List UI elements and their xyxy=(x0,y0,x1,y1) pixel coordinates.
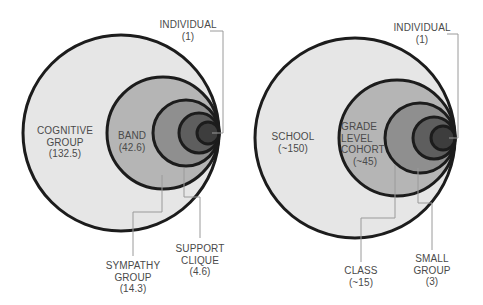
label-line: INDIVIDUAL xyxy=(388,22,456,34)
label-line: COHORT xyxy=(341,144,393,156)
label-grade-level-cohort: GRADE LEVEL COHORT (~45) xyxy=(341,121,393,167)
label-class: CLASS (~15) xyxy=(335,265,387,288)
label-value: (1) xyxy=(388,34,456,46)
label-line: SUPPORT xyxy=(168,243,232,255)
label-line: CLIQUE xyxy=(168,255,232,267)
label-individual-left: INDIVIDUAL (1) xyxy=(154,19,222,42)
label-value: (14.3) xyxy=(100,283,166,295)
label-line: SYMPATHY xyxy=(100,260,166,272)
label-line: SMALL xyxy=(403,253,461,265)
label-line: SCHOOL xyxy=(265,131,321,143)
label-cognitive-group: COGNITIVE GROUP (132.5) xyxy=(30,125,100,160)
label-line: CLASS xyxy=(335,265,387,277)
label-value: (1) xyxy=(154,31,222,43)
label-individual-right: INDIVIDUAL (1) xyxy=(388,22,456,45)
label-school: SCHOOL (~150) xyxy=(265,131,321,154)
label-value: (42.6) xyxy=(112,142,152,154)
label-value: (~45) xyxy=(341,156,389,168)
label-line: INDIVIDUAL xyxy=(154,19,222,31)
label-sympathy-group: SYMPATHY GROUP (14.3) xyxy=(100,260,166,295)
label-line: GROUP xyxy=(403,265,461,277)
label-value: (~15) xyxy=(335,277,387,289)
label-line: GROUP xyxy=(30,137,100,149)
label-value: (132.5) xyxy=(30,148,100,160)
label-value: (4.6) xyxy=(168,266,232,278)
label-line: LEVEL xyxy=(341,133,393,145)
label-line: GROUP xyxy=(100,272,166,284)
label-value: (~150) xyxy=(265,143,321,155)
label-support-clique: SUPPORT CLIQUE (4.6) xyxy=(168,243,232,278)
label-value: (3) xyxy=(403,276,461,288)
label-line: BAND xyxy=(112,130,152,142)
label-line: COGNITIVE xyxy=(30,125,100,137)
label-band: BAND (42.6) xyxy=(112,130,152,153)
label-small-group: SMALL GROUP (3) xyxy=(403,253,461,288)
label-line: GRADE xyxy=(341,121,393,133)
